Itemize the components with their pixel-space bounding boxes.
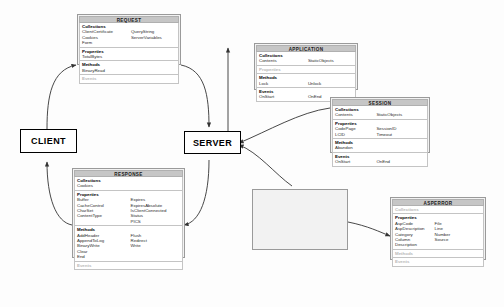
member-row: TotalBytes — [82, 54, 176, 59]
member-row: Description — [395, 242, 481, 247]
object-box-session[interactable]: SESSIONCollectionsContentsStaticObjectsP… — [330, 97, 430, 153]
section-asperror-properties: PropertiesAspCodeFileAspDescriptionLineC… — [392, 214, 484, 249]
section-response-events: Events — [74, 262, 183, 270]
member-name: Timeout — [376, 132, 425, 137]
arrow-request-to-server — [181, 65, 209, 127]
member-name — [131, 54, 176, 59]
member-name: OnEnd — [376, 159, 425, 164]
member-name: StaticObjects — [308, 58, 353, 63]
section-header: Events — [77, 263, 180, 268]
section-rows: ContentsStaticObjects — [259, 58, 353, 63]
section-header: Collections — [395, 207, 481, 212]
arrow-serverobject-to-server — [239, 145, 292, 186]
member-name — [435, 242, 481, 247]
member-name — [131, 183, 180, 188]
section-rows: TotalBytes — [82, 54, 176, 59]
member-name: Abandon — [335, 145, 376, 150]
member-name: PICS — [131, 219, 180, 224]
node-client-label: CLIENT — [31, 136, 66, 146]
member-name: Contents — [259, 58, 308, 63]
member-name: Description — [395, 242, 435, 247]
section-request-events: Events — [79, 75, 179, 83]
section-rows: CodePageSessionIDLCIDTimeout — [335, 126, 425, 137]
member-row: OnStartOnEnd — [335, 159, 425, 164]
arrow-response-to-client — [47, 162, 72, 225]
member-name: TotalBytes — [82, 54, 131, 59]
member-name: BinaryRead — [82, 68, 131, 73]
section-rows: LockUnlock — [259, 81, 353, 86]
object-title-application: APPLICATION — [256, 45, 356, 52]
member-row: LockUnlock — [259, 81, 353, 86]
section-header: Events — [82, 76, 176, 81]
member-name — [131, 68, 176, 73]
section-rows: OnStartOnEnd — [335, 159, 425, 164]
section-request-properties: PropertiesTotalBytes — [79, 48, 179, 62]
member-row: Abandon — [335, 145, 425, 150]
section-header: Methods — [395, 251, 481, 256]
section-request-methods: MethodsBinaryRead — [79, 61, 179, 75]
object-box-application[interactable]: APPLICATIONCollectionsContentsStaticObje… — [254, 43, 358, 90]
object-box-asperror[interactable]: ASPERRORCollectionsPropertiesAspCodeFile… — [390, 197, 486, 260]
section-session-collections: CollectionsContentsStaticObjects — [332, 106, 428, 120]
node-client[interactable]: CLIENT — [20, 129, 77, 153]
section-rows: ClientCertificateQueryStringCookiesServe… — [82, 29, 176, 45]
object-box-serverobject[interactable] — [252, 189, 348, 250]
section-rows: AspCodeFileAspDescriptionLineCategoryNum… — [395, 221, 481, 248]
arrow-client-to-request — [47, 65, 76, 129]
member-row: ContentsStaticObjects — [335, 112, 425, 117]
member-row: PICS — [77, 219, 180, 224]
section-application-properties: Properties — [256, 66, 356, 74]
member-row: Cookies — [77, 183, 180, 188]
section-response-collections: CollectionsCookies — [74, 177, 183, 191]
member-name — [131, 254, 180, 259]
object-title-response: RESPONSE — [74, 170, 183, 177]
member-name: End — [77, 254, 131, 259]
node-server[interactable]: SERVER — [184, 131, 241, 154]
section-rows: Abandon — [335, 145, 425, 150]
section-asperror-methods: Methods — [392, 250, 484, 258]
section-rows: BinaryRead — [82, 68, 176, 73]
section-session-properties: PropertiesCodePageSessionIDLCIDTimeout — [332, 120, 428, 139]
arrow-server-to-response — [184, 160, 209, 225]
member-name: Unlock — [308, 81, 353, 86]
section-response-methods: MethodsAddHeaderFlushAppendToLogRedirect… — [74, 226, 183, 261]
object-title-asperror: ASPERROR — [392, 199, 484, 206]
object-title-request: REQUEST — [79, 16, 179, 23]
section-application-collections: CollectionsContentsStaticObjects — [256, 52, 356, 66]
section-session-methods: MethodsAbandon — [332, 139, 428, 153]
member-name: OnStart — [335, 159, 376, 164]
section-asperror-events: Events — [392, 258, 484, 266]
object-box-response[interactable]: RESPONSECollectionsCookiesPropertiesBuff… — [72, 168, 185, 258]
member-row: BinaryRead — [82, 68, 176, 73]
member-name: Lock — [259, 81, 308, 86]
diagram-canvas: CLIENT SERVER REQUESTCollectionsClientCe… — [0, 0, 504, 307]
member-name: OnStart — [259, 94, 308, 99]
member-row: LCIDTimeout — [335, 132, 425, 137]
member-name: Contents — [335, 112, 376, 117]
member-row: ContentsStaticObjects — [259, 58, 353, 63]
member-row: Form — [82, 40, 176, 45]
member-name — [376, 145, 425, 150]
section-rows: AddHeaderFlushAppendToLogRedirectBinaryW… — [77, 233, 180, 260]
member-name: Cookies — [77, 183, 131, 188]
section-rows: Cookies — [77, 183, 180, 188]
section-rows: BufferExpiresCacheControlExpiresAbsolute… — [77, 197, 180, 224]
member-name: LCID — [335, 132, 376, 137]
section-session-events: EventsOnStartOnEnd — [332, 153, 428, 167]
section-rows: ContentsStaticObjects — [335, 112, 425, 117]
arrow-serverobject-to-asperror — [348, 222, 390, 236]
section-header: Events — [395, 259, 481, 264]
member-row: End — [77, 254, 180, 259]
section-header: Properties — [259, 67, 353, 72]
member-name — [77, 219, 131, 224]
member-name: StaticObjects — [376, 112, 425, 117]
section-asperror-collections: Collections — [392, 206, 484, 214]
arrow-session-to-server — [239, 108, 330, 143]
object-title-session: SESSION — [332, 99, 428, 106]
section-response-properties: PropertiesBufferExpiresCacheControlExpir… — [74, 191, 183, 226]
object-box-request[interactable]: REQUESTCollectionsClientCertificateQuery… — [77, 14, 181, 65]
node-server-label: SERVER — [193, 138, 232, 148]
section-application-methods: MethodsLockUnlock — [256, 74, 356, 88]
section-request-collections: CollectionsClientCertificateQueryStringC… — [79, 23, 179, 48]
member-name: Form — [82, 40, 131, 45]
